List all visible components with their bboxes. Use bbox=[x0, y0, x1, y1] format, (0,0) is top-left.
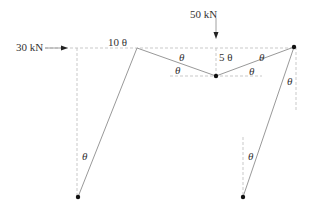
angle-theta-right-column-top: θ bbox=[287, 76, 292, 87]
diagram-canvas: 30 kN 50 kN 10 θ 5 θ θ θ θ θ θ θ θ bbox=[0, 0, 313, 210]
load-50kN-arrow bbox=[214, 18, 219, 39]
load-30kN-label: 30 kN bbox=[16, 42, 43, 53]
angle-theta-left-column: θ bbox=[82, 151, 87, 162]
frame-drawing bbox=[0, 0, 313, 210]
load-30kN-arrow bbox=[45, 46, 68, 51]
joints bbox=[76, 45, 296, 199]
angle-theta-right-beam-top: θ bbox=[259, 52, 264, 63]
reference-lines bbox=[45, 47, 296, 197]
angle-theta-left-beam-top: θ bbox=[179, 52, 184, 63]
load-50kN-label: 50 kN bbox=[190, 9, 217, 20]
displacement-10theta-label: 10 θ bbox=[108, 37, 127, 48]
angle-theta-right-beam-bottom: θ bbox=[249, 66, 254, 77]
displacement-5theta-label: 5 θ bbox=[219, 52, 233, 63]
left-column bbox=[78, 48, 137, 197]
left-support-pin bbox=[76, 195, 80, 199]
members bbox=[78, 47, 294, 197]
angle-theta-right-column-bottom: θ bbox=[248, 151, 253, 162]
angle-theta-left-beam-bottom: θ bbox=[175, 65, 180, 76]
top-right-hinge bbox=[292, 45, 296, 49]
middle-hinge bbox=[214, 74, 218, 78]
right-support-pin bbox=[241, 195, 245, 199]
